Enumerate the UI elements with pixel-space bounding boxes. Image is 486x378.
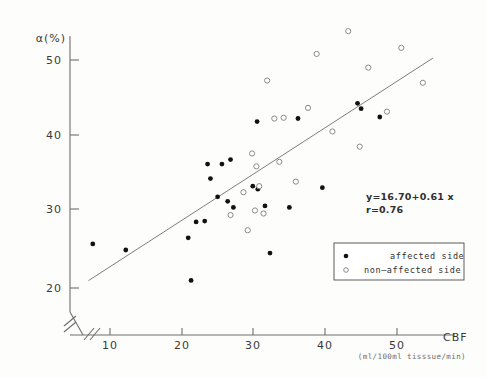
data-point <box>346 29 351 34</box>
data-point <box>355 101 360 106</box>
data-point <box>296 116 301 121</box>
scatter-plot: 50 40 30 20 α(%) 10 20 30 40 50 CBF (ml/… <box>0 0 486 378</box>
y-tick-label-20: 20 <box>46 282 62 295</box>
x-tick-label-30: 30 <box>245 339 261 352</box>
data-point <box>272 116 277 121</box>
y-tick-label-50: 50 <box>46 54 62 67</box>
data-point <box>257 184 262 189</box>
x-tick-label-20: 20 <box>174 339 190 352</box>
data-point <box>249 151 254 156</box>
legend-marker-non-affected <box>344 268 349 273</box>
data-point <box>90 242 95 247</box>
y-axis-title: α(%) <box>36 32 66 45</box>
data-point <box>377 115 382 120</box>
data-point <box>314 51 319 56</box>
data-point <box>228 212 233 217</box>
data-point <box>366 65 371 70</box>
data-point <box>359 106 364 111</box>
data-point <box>255 119 260 124</box>
data-point <box>287 205 292 210</box>
data-point <box>263 204 268 209</box>
correlation-coefficient: r=0.76 <box>366 204 403 215</box>
data-point <box>261 211 266 216</box>
legend-marker-affected <box>344 254 349 259</box>
data-point <box>254 164 259 169</box>
data-point <box>420 80 425 85</box>
data-point <box>281 115 286 120</box>
data-point <box>241 190 246 195</box>
x-tick-label-50: 50 <box>389 339 405 352</box>
legend-label-affected: affected side <box>390 251 464 261</box>
x-tick-label-40: 40 <box>317 339 333 352</box>
x-axis-units: (ml/100ml tisssue/min) <box>358 352 466 361</box>
regression-equation: y=16.70+0.61 x <box>366 191 454 202</box>
y-axis-ticks <box>70 60 79 288</box>
legend-label-non-affected: non—affected side <box>364 265 461 275</box>
data-point <box>268 251 273 256</box>
series-non-affected-side <box>228 29 425 233</box>
data-point <box>357 144 362 149</box>
chart-canvas: 50 40 30 20 α(%) 10 20 30 40 50 CBF (ml/… <box>0 0 486 378</box>
data-point <box>252 208 257 213</box>
x-axis-title: CBF <box>443 331 468 344</box>
data-point <box>208 176 213 181</box>
axis-corner-connector <box>70 312 83 335</box>
data-point <box>245 228 250 233</box>
data-point <box>215 194 220 199</box>
data-point <box>231 205 236 210</box>
data-point <box>194 219 199 224</box>
data-point <box>265 78 270 83</box>
data-point <box>277 159 282 164</box>
data-point <box>305 105 310 110</box>
data-point <box>220 162 225 167</box>
data-point <box>320 185 325 190</box>
y-tick-label-30: 30 <box>46 203 62 216</box>
data-point <box>123 248 128 253</box>
data-point <box>225 199 230 204</box>
data-point <box>293 179 298 184</box>
data-point <box>330 129 335 134</box>
axis-break-marks <box>64 316 100 340</box>
y-tick-label-40: 40 <box>46 129 62 142</box>
data-point <box>205 162 210 167</box>
data-point <box>384 109 389 114</box>
x-tick-label-10: 10 <box>102 339 118 352</box>
data-point <box>202 219 207 224</box>
data-point <box>186 235 191 240</box>
data-point <box>250 184 255 189</box>
data-point <box>189 278 194 283</box>
legend: affected side non—affected side <box>334 243 464 280</box>
x-axis-ticks <box>110 328 397 335</box>
data-point <box>399 45 404 50</box>
data-point <box>228 157 233 162</box>
